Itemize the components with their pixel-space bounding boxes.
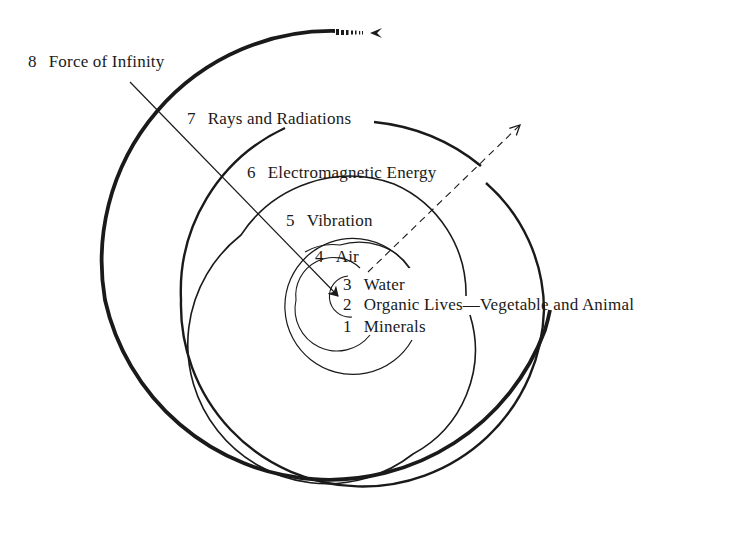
level-3-number: 3 [343, 276, 352, 293]
level-2-text: Organic Lives—Vegetable and Animal [364, 295, 634, 314]
spiral-tail [336, 28, 382, 38]
level-8-label: 8Force of Infinity [28, 53, 164, 70]
level-8-text: Force of Infinity [49, 52, 165, 71]
level-1-number: 1 [343, 318, 352, 335]
spiral-diagram [0, 0, 734, 542]
level-3-text: Water [364, 275, 405, 294]
level-4-label: 4Air [315, 248, 359, 265]
level-7-label: 7Rays and Radiations [187, 110, 351, 127]
level-1-label: 1Minerals [343, 318, 426, 335]
level-7-number: 7 [187, 110, 196, 127]
level-4-number: 4 [315, 248, 324, 265]
level-1-text: Minerals [364, 317, 426, 336]
level-3-label: 3Water [343, 276, 405, 293]
level-4-text: Air [336, 247, 359, 266]
level-2-label: 2Organic Lives—Vegetable and Animal [343, 296, 634, 313]
level-2-number: 2 [343, 296, 352, 313]
level-5-label: 5Vibration [286, 212, 373, 229]
level-8-number: 8 [28, 53, 37, 70]
level-6-number: 6 [247, 164, 256, 181]
spiral-segment-6 [374, 122, 481, 166]
level-6-text: Electromagnetic Energy [268, 163, 437, 182]
level-6-label: 6Electromagnetic Energy [247, 164, 437, 181]
level-5-text: Vibration [307, 211, 373, 230]
level-5-number: 5 [286, 212, 295, 229]
level-7-text: Rays and Radiations [208, 109, 352, 128]
